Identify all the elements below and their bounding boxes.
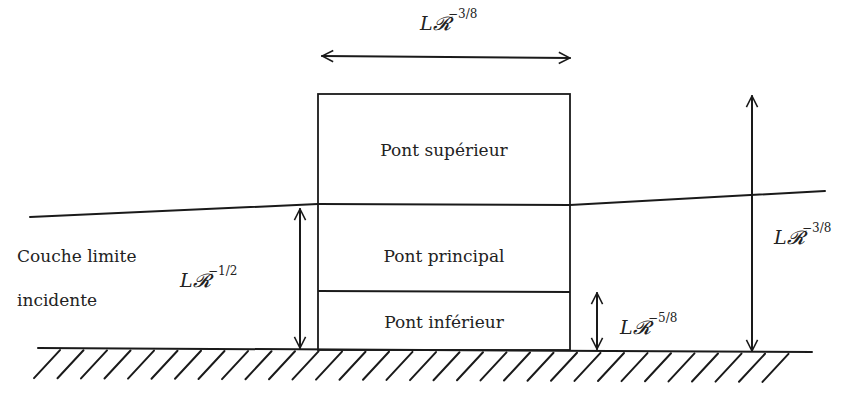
hatch-mark — [481, 352, 507, 380]
hatch-mark — [551, 353, 577, 381]
hatch-mark — [716, 354, 742, 382]
incident-layer-edge-left — [30, 204, 318, 217]
incident-layer-label-line2: incidente — [17, 290, 97, 310]
hatch-mark — [128, 351, 154, 379]
hatch-mark — [763, 354, 789, 382]
lower-deck-height-label: L𝓡 −5/8 — [619, 311, 677, 338]
triple-deck-diagram: Pont supérieur Pont principal Pont infér… — [0, 0, 863, 405]
hatch-mark — [622, 353, 648, 381]
hatch-mark — [692, 354, 718, 382]
width-top-label: L𝓡 −3/8 — [419, 7, 477, 34]
upper-deck-label: Pont supérieur — [380, 140, 508, 160]
upper-deck-height-label: L𝓡 −3/8 — [773, 221, 831, 248]
hatch-mark — [669, 353, 695, 381]
main-deck-label: Pont principal — [384, 246, 505, 266]
hatch-mark — [457, 352, 483, 380]
svg-text:−5/8: −5/8 — [648, 311, 677, 325]
svg-text:−3/8: −3/8 — [448, 7, 477, 21]
incident-thickness-label: L𝓡 −1/2 — [179, 264, 237, 291]
width-arrow — [322, 56, 570, 58]
wall-hatching — [34, 350, 789, 382]
hatch-mark — [528, 353, 554, 381]
incident-layer-label-line1: Couche limite — [17, 246, 136, 266]
hatch-mark — [81, 350, 107, 378]
hatch-mark — [504, 353, 530, 381]
hatch-mark — [152, 351, 178, 379]
hatch-mark — [175, 351, 201, 379]
hatch-mark — [434, 352, 460, 380]
upper-main-divider — [318, 204, 570, 205]
svg-text:−1/2: −1/2 — [208, 264, 237, 278]
hatch-mark — [316, 352, 342, 380]
main-lower-divider — [318, 291, 570, 292]
hatch-mark — [58, 350, 84, 378]
hatch-mark — [363, 352, 389, 380]
hatch-mark — [293, 351, 319, 379]
hatch-mark — [105, 351, 131, 379]
hatch-mark — [222, 351, 248, 379]
hatch-mark — [269, 351, 295, 379]
svg-text:−3/8: −3/8 — [802, 221, 831, 235]
hatch-mark — [410, 352, 436, 380]
hatch-mark — [199, 351, 225, 379]
lower-deck-label: Pont inférieur — [384, 312, 504, 332]
hatch-mark — [246, 351, 272, 379]
hatch-mark — [34, 350, 60, 378]
incident-layer-edge-right — [570, 191, 825, 205]
hatch-mark — [739, 354, 765, 382]
hatch-mark — [340, 352, 366, 380]
hatch-mark — [645, 353, 671, 381]
hatch-mark — [387, 352, 413, 380]
hatch-mark — [575, 353, 601, 381]
hatch-mark — [598, 353, 624, 381]
